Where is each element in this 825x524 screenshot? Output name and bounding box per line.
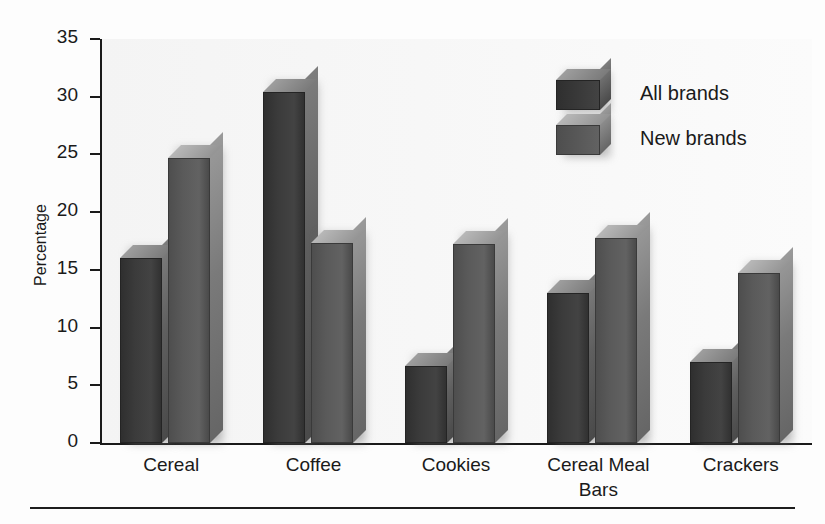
y-axis-tick [90,384,100,386]
bar-new-brands [311,243,353,443]
y-axis-tick [90,153,100,155]
bar-group [405,39,495,443]
y-axis-tick [90,327,100,329]
bar-new-brands [595,238,637,443]
x-axis-label: Cereal MealBars [527,452,669,502]
legend-swatch-new-brands-icon [556,125,600,155]
x-axis-label: Cereal [100,452,242,477]
chart-figure: 05101520253035 Percentage CerealCoffeeCo… [0,0,825,524]
legend-item-all-brands: All brands [556,74,796,114]
y-axis-tick-label: 0 [38,430,78,452]
bar-slot [311,243,353,443]
legend-item-new-brands: New brands [556,119,796,159]
x-axis-label-line: Cookies [385,452,527,477]
y-axis-tick-label: 35 [38,26,78,48]
bar-group [120,39,210,443]
x-axis-label-line: Crackers [670,452,812,477]
bar-slot [405,366,447,443]
bar-all-brands [263,92,305,443]
y-axis-tick [90,442,100,444]
x-axis-label-line: Bars [527,477,669,502]
bar-slot [263,92,305,443]
x-axis-label-line: Cereal Meal [527,452,669,477]
bar-group [263,39,353,443]
y-axis-tick-label: 5 [38,372,78,394]
x-axis-line [100,443,812,445]
x-axis-label: Cookies [385,452,527,477]
y-axis-tick [90,38,100,40]
bar-new-brands [738,273,780,443]
x-axis-label: Coffee [242,452,384,477]
bar-slot [120,258,162,443]
legend-label-all-brands: All brands [640,82,729,105]
bar-all-brands [120,258,162,443]
x-axis-label-line: Cereal [100,452,242,477]
legend-swatch-all-brands-icon [556,80,600,110]
x-axis-label-line: Coffee [242,452,384,477]
chart-legend: All brands New brands [556,74,796,164]
bar-slot [690,362,732,443]
y-axis-tick [90,96,100,98]
bar-slot [547,293,589,443]
bar-slot [738,273,780,443]
bar-all-brands [547,293,589,443]
y-axis-title-text: Percentage [32,160,50,330]
bar-slot [595,238,637,443]
y-axis-tick [90,269,100,271]
y-axis-tick-label: 30 [38,84,78,106]
bar-slot [453,244,495,443]
legend-label-new-brands: New brands [640,127,747,150]
y-axis-title: Percentage [18,150,46,340]
bar-all-brands [405,366,447,443]
y-axis-tick [90,211,100,213]
bar-slot [168,158,210,443]
bar-new-brands [453,244,495,443]
bottom-divider [30,507,795,509]
bar-all-brands [690,362,732,443]
x-axis-label: Crackers [670,452,812,477]
bar-new-brands [168,158,210,443]
